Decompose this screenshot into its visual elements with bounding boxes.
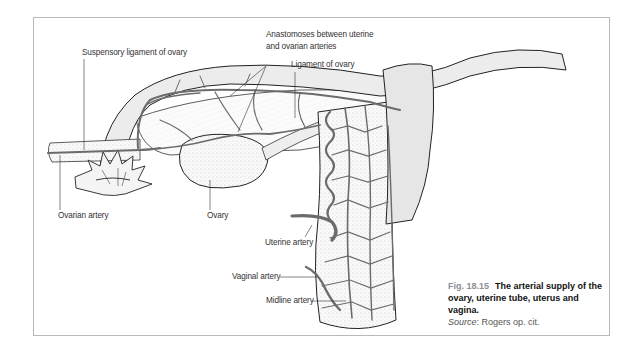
label-uterine-artery: Uterine artery [265,238,313,247]
source-text: : Rogers op. cit. [477,317,540,327]
label-midline-artery: Midline artery [266,296,314,305]
figure-caption: Fig. 18.15The arterial supply of the ova… [448,280,608,328]
label-ligament-of-ovary: Ligament of ovary [291,60,354,69]
figure-source: Source: Rogers op. cit. [448,317,540,327]
label-ovary: Ovary [207,211,228,220]
label-vaginal-artery: Vaginal artery [232,272,281,281]
ovary [179,134,268,188]
figure-number: Fig. 18.15 [448,281,489,291]
label-ovarian-artery: Ovarian artery [58,211,108,220]
source-label: Source [448,317,477,327]
label-suspensory-ligament: Suspensory ligament of ovary [82,48,187,57]
label-anastomoses-line1: Anastomoses between uterine [266,30,373,39]
label-anastomoses-line2: and ovarian arteries [266,42,336,51]
